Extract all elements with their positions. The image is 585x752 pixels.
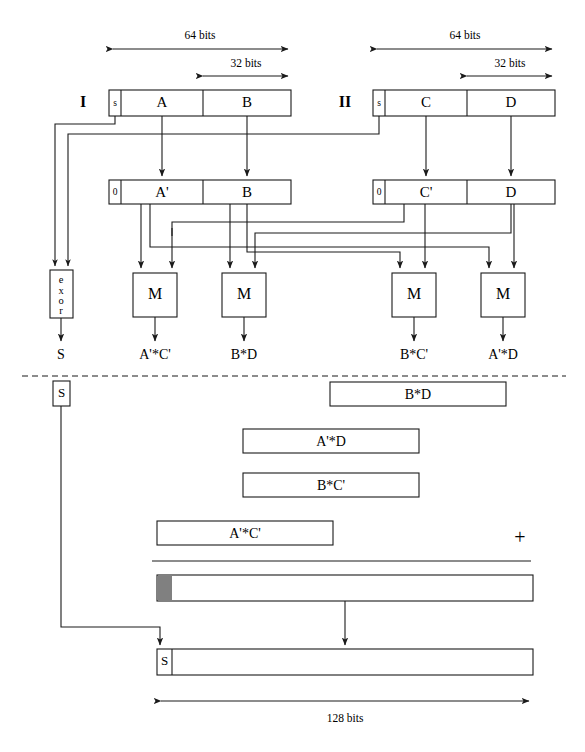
multiplier-output-1: A'*C'	[115, 348, 195, 362]
operand-I-sign-bit: s	[109, 99, 121, 109]
partial-bar-label-2: A'*D	[243, 435, 419, 449]
exor-char-e: e	[53, 275, 69, 285]
partial-bar-label-1: B*D	[330, 388, 506, 402]
magnitude-2-low-word: D	[467, 185, 555, 200]
sum-bar	[157, 575, 533, 601]
partial-bar-label-3: B*C'	[243, 479, 419, 493]
dim-label-32-right: 32 bits	[470, 58, 550, 70]
wire-D-to-M2	[255, 204, 511, 268]
operand-tag-II: II	[328, 94, 362, 110]
dim-label-128: 128 bits	[305, 713, 385, 725]
magnitude-1-sign-bit: 0	[109, 188, 121, 198]
exor-output-label: S	[41, 348, 81, 362]
multiplier-label-1: M	[133, 286, 177, 302]
operand-II-sign-bit: s	[373, 99, 385, 109]
magnitude-2-high-word: C'	[385, 185, 467, 200]
operand-I-low-word: B	[203, 95, 291, 110]
exor-char-r: r	[53, 306, 69, 316]
wire-sign-I-to-exor	[55, 116, 115, 266]
magnitude-1-low-word: B	[203, 185, 291, 200]
multiplier-label-2: M	[222, 286, 266, 302]
multiplier-output-4: A'*D	[463, 348, 543, 362]
multiplier-label-4: M	[481, 286, 525, 302]
wire-Aprime-rail	[141, 204, 250, 242]
magnitude-2-sign-bit: 0	[373, 188, 385, 198]
multiplier-output-3: B*C'	[374, 348, 454, 362]
sign-carry-box-label: S	[53, 386, 70, 399]
wire-S-to-result	[61, 406, 160, 645]
wire-B-to-M3	[247, 204, 400, 268]
result-bar-sign-label: S	[157, 654, 172, 667]
dim-label-32-left: 32 bits	[206, 58, 286, 70]
wire-Aprime-to-M4-visible	[150, 204, 489, 268]
partial-bar-label-4: A'*C'	[157, 527, 333, 541]
diagram-canvas: 64 bits 32 bits 64 bits 32 bits 128 bits…	[0, 0, 585, 752]
operand-II-low-word: D	[467, 95, 555, 110]
result-bar	[157, 649, 533, 675]
dim-label-64-right: 64 bits	[425, 30, 505, 42]
operand-I-high-word: A	[121, 95, 203, 110]
adder-plus-symbol: +	[505, 527, 535, 547]
diagram-vector-layer	[0, 0, 585, 752]
magnitude-1-high-word: A'	[121, 185, 203, 200]
operand-II-high-word: C	[385, 95, 467, 110]
wire-Aprime-to-M4	[148, 204, 489, 268]
operand-tag-I: I	[68, 94, 98, 110]
sum-bar-overflow-block	[158, 576, 172, 600]
dim-label-64-left: 64 bits	[160, 30, 240, 42]
multiplier-label-3: M	[392, 286, 436, 302]
wire-Cprime-rail-left	[172, 204, 404, 236]
multiplier-output-2: B*D	[204, 348, 284, 362]
